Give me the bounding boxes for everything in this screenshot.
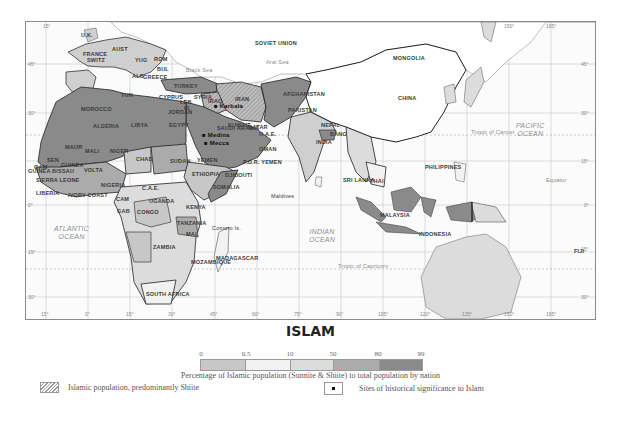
country-label-p-d-r-yemen: P.D.R. YEMEN (243, 160, 282, 166)
country-label-djibouti: DJIBOUTI (225, 173, 252, 179)
country-label-ivory-coast: IVORY COAST (68, 193, 108, 199)
country-label-iran: IRAN (235, 97, 249, 103)
lat-tick-right: 0° (584, 202, 589, 208)
black-sea-label: Black Sea (186, 68, 213, 74)
scale-break: 0 (199, 350, 203, 358)
country-label-saudi-arabia: SAUDI ARABIA (217, 126, 259, 132)
country-label-gab: GAB (117, 209, 130, 215)
sites-label: Sites of historical significance to Isla… (359, 384, 484, 393)
lon-tick: 120° (420, 311, 430, 317)
lat-tick-right: 30° (581, 110, 589, 116)
country-label-mali: MALI (85, 149, 99, 155)
lat-tick-right: 15° (581, 246, 589, 252)
lon-tick: 15° (41, 311, 49, 317)
country-label-c-a-e-: C.A.E. (142, 186, 159, 192)
ocean-label: INDIAN OCEAN (309, 228, 335, 243)
top-tick: 150° (504, 23, 514, 29)
country-label-philippines: PHILIPPINES (425, 165, 461, 171)
country-label-u-a-e-: U.A.E. (259, 132, 276, 138)
country-label-pakistan: PAKISTAN (288, 108, 317, 114)
lat-tick-left: 30° (28, 294, 36, 300)
swatch-0.5-10 (246, 360, 290, 370)
lat-tick-left: 15° (28, 249, 36, 255)
lon-tick: 60° (252, 311, 260, 317)
country-label-south-africa: SOUTH AFRICA (146, 292, 190, 298)
country-label-mal: MAL (186, 232, 199, 238)
country-label-nigeria: NIGERIA (101, 183, 125, 189)
site-karbala: ■ Karbala (214, 103, 243, 109)
country-label-sierra-leone: SIERRA LEONE (36, 178, 79, 184)
lon-tick: 90° (336, 311, 344, 317)
country-label-somalia: SOMALIA (213, 185, 240, 191)
sites-legend: Sites of historical significance to Isla… (324, 382, 484, 395)
lat-tick-right: 45° (581, 61, 589, 67)
country-label-liberia: LIBERIA (36, 191, 59, 197)
tropic-of-cancer-label: Tropic of Cancer (471, 130, 515, 136)
country-label-thai: THAI (370, 179, 384, 185)
lon-tick: 0° (85, 311, 90, 317)
country-label-indonesia: INDONESIA (419, 232, 451, 238)
lon-tick: 75° (294, 311, 302, 317)
country-label-niger: NIGER (110, 149, 128, 155)
maldives-label: Maldives (271, 194, 294, 200)
world-map (26, 22, 595, 319)
swatch-80-99 (380, 360, 422, 370)
country-label-egypt: EGYPT (169, 123, 189, 129)
country-label-tanzania: TANZANIA (177, 221, 206, 227)
legend-title: ISLAM (0, 323, 621, 339)
country-label-madagascar: MADAGASCAR (216, 256, 258, 262)
shiite-legend: Islamic population, predominantly Shiite (40, 382, 199, 393)
site-marker-icon (324, 382, 343, 395)
lon-tick: 45° (210, 311, 218, 317)
country-label-china: CHINA (398, 96, 416, 102)
lon-tick: 30° (168, 311, 176, 317)
equator-label: Equator (546, 178, 567, 184)
country-label-yemen: YEMEN (197, 158, 218, 164)
country-label-switz: SWITZ (87, 58, 105, 64)
lon-tick: 105° (378, 311, 388, 317)
lon-tick: 165° (546, 311, 556, 317)
country-label-sudan: SUDAN (170, 159, 191, 165)
country-label-bul: BUL (157, 67, 169, 73)
country-label-sen: SEN (47, 158, 59, 164)
lon-tick: 150° (504, 311, 514, 317)
top-tick: 165° (546, 23, 556, 29)
swatch-10-50 (291, 360, 334, 370)
tropic-of-capricorn-label: Tropic of Capricorn (338, 264, 388, 270)
country-label-oman: OMAN (259, 147, 277, 153)
ocean-label: PACIFIC OCEAN (516, 122, 545, 137)
country-label-u-k-: U.K. (81, 33, 93, 39)
lon-tick: 135° (462, 311, 472, 317)
country-label-jordan: JORDAN (168, 110, 192, 116)
country-label-congo: CONGO (137, 210, 159, 216)
country-label-afghanistan: AFGHANISTAN (283, 92, 325, 98)
scale-break: 80 (375, 350, 382, 358)
top-tick: 15° (43, 23, 51, 29)
lon-tick: 15° (126, 311, 134, 317)
country-label-zambia: ZAMBIA (153, 245, 176, 251)
country-label-turkey: TURKEY (174, 84, 198, 90)
country-label-greece: GREECE (143, 75, 167, 81)
lat-tick-left: 45° (28, 61, 36, 67)
country-label-bang: BANG (330, 132, 347, 138)
country-label-chad: CHAD (136, 157, 153, 163)
scale-bar (200, 359, 423, 371)
country-label-kenya: KENYA (186, 205, 206, 211)
country-label-yug: YUG (135, 58, 148, 64)
country-label-guinea-bissau: GUINEA BISSAU (28, 169, 74, 175)
hatch-pattern-icon (40, 382, 59, 393)
scale-break: 50 (330, 350, 337, 358)
country-label-malaysia: MALAYSIA (380, 213, 410, 219)
country-label-volta: VOLTA (84, 168, 103, 174)
scale-caption: Percentage of Islamic population (Sunnit… (0, 371, 621, 380)
country-label-morocco: MOROCCO (81, 107, 112, 113)
country-label-algeria: ALGERIA (93, 124, 119, 130)
country-label-mongolia: MONGOLIA (393, 56, 425, 62)
country-label-uganda: UGANDA (149, 199, 174, 205)
swatch-50-80 (334, 360, 379, 370)
country-label-libya: LIBYA (131, 123, 148, 129)
country-label-aust: AUST (112, 47, 128, 53)
lat-tick-left: 30° (28, 110, 36, 116)
country-label-tun: TUN (121, 93, 133, 99)
ocean-label: ATLANTIC OCEAN (54, 225, 89, 240)
